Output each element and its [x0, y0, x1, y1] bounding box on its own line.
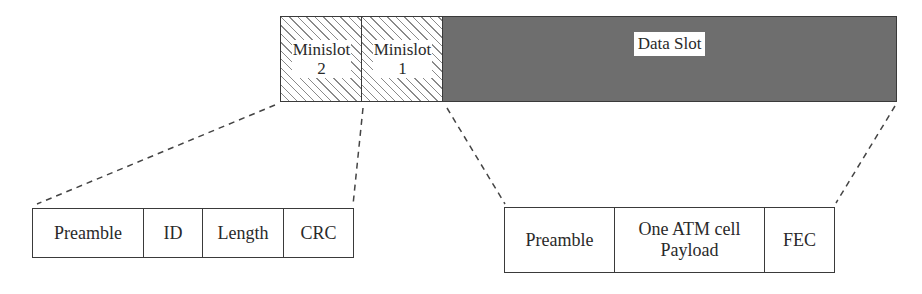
minislot-1: Minislot 1	[361, 16, 444, 102]
minislot-1-label: Minislot 1	[373, 40, 433, 78]
field-length: Length	[203, 209, 284, 257]
dataslot-right-connector	[836, 106, 895, 203]
field-preamble: Preamble	[33, 209, 144, 257]
data-slot-label: Data Slot	[634, 32, 706, 56]
field-atm-payload: One ATM cell Payload	[615, 208, 765, 272]
minislot-1-label-line2: 1	[398, 59, 407, 78]
dataslot-detail-frame: Preamble One ATM cell Payload FEC	[504, 207, 835, 273]
field-preamble: Preamble	[505, 208, 615, 272]
payload-line2: Payload	[661, 240, 719, 261]
dataslot-left-connector	[447, 108, 505, 204]
payload-line1: One ATM cell	[639, 219, 741, 240]
minislot-right-connector	[353, 108, 363, 205]
minislot-2: Minislot 2	[280, 16, 363, 102]
minislot-detail-frame: Preamble ID Length CRC	[32, 208, 354, 258]
minislot-1-label-line1: Minislot	[374, 40, 432, 59]
minislot-2-label: Minislot 2	[292, 40, 352, 78]
data-slot: Data Slot	[442, 16, 897, 102]
field-id: ID	[144, 209, 203, 257]
minislot-2-label-line2: 2	[317, 59, 326, 78]
field-crc: CRC	[284, 209, 353, 257]
minislot-left-connector	[37, 105, 275, 204]
field-fec: FEC	[765, 208, 834, 272]
minislot-2-label-line1: Minislot	[293, 40, 351, 59]
